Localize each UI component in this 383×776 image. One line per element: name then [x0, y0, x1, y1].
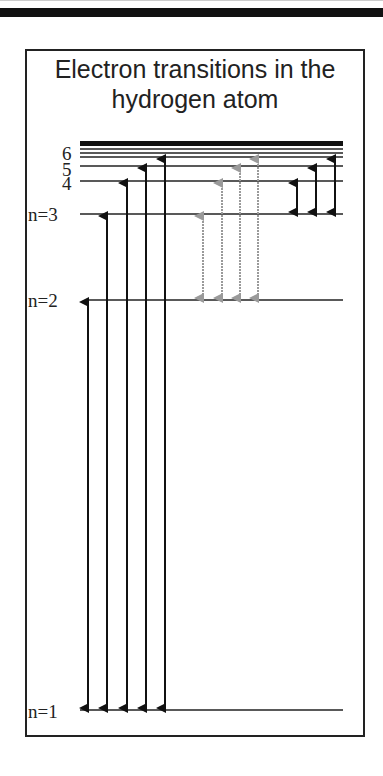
energy-level-diagram: 6 5 4 n=3 n=2 n=1: [0, 0, 383, 776]
lyman-series-arrows: [88, 159, 165, 708]
balmer-series-arrows: [203, 159, 258, 298]
level-2-label: n=2: [28, 290, 58, 311]
level-4-label: 4: [62, 173, 72, 194]
energy-levels: [80, 157, 343, 710]
paschen-series-arrows: [297, 159, 335, 212]
continuum-band: [80, 141, 343, 153]
level-3-label: n=3: [28, 204, 58, 225]
level-labels: 6 5 4 n=3 n=2 n=1: [28, 143, 72, 722]
level-1-label: n=1: [28, 701, 58, 722]
